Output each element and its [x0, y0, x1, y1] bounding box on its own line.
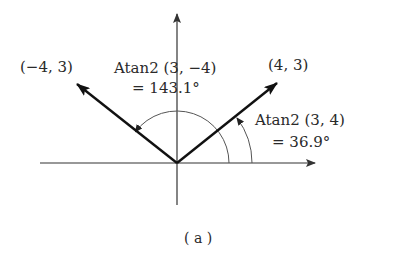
label-angle-36-line2: = 36.9°	[272, 135, 330, 150]
label-angle-143-line2: = 143.1°	[132, 81, 200, 96]
label-angle-143-line1: Atan2 (3, −4)	[114, 61, 216, 76]
angle-arc-143	[135, 111, 229, 163]
label-angle-36-line1: Atan2 (3, 4)	[255, 113, 345, 128]
label-vector-neg4-3: (−4, 3)	[20, 60, 73, 75]
figure-caption: ( a )	[184, 231, 212, 245]
label-vector-4-3: (4, 3)	[268, 58, 308, 73]
angle-arc-36	[237, 118, 252, 163]
